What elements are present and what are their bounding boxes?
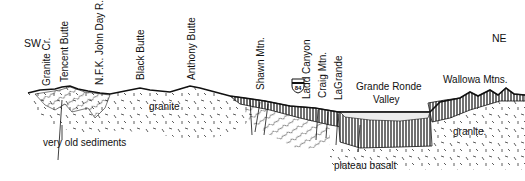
label-granite-cr: Granite Cr.: [42, 38, 52, 86]
shield-number: 84: [291, 85, 305, 91]
label-tencent-butte: Tencent Butte: [60, 21, 70, 82]
label-lagrande: LaGrande: [334, 56, 344, 100]
geologic-cross-section: [0, 0, 525, 181]
label-nfk-john-day: N.F.K. John Day R.: [95, 0, 105, 85]
label-anthony-butte: Anthony Butte: [187, 17, 197, 80]
label-plateau-basalt: plateau basalt: [334, 161, 396, 171]
direction-ne: NE: [492, 33, 507, 44]
direction-sw: SW: [24, 38, 41, 49]
label-granite-left: granite: [149, 102, 180, 112]
label-craig-mtn: Craig Mtn.: [318, 52, 328, 98]
label-wallowa-mtns: Wallowa Mtns.: [443, 75, 508, 85]
label-shawn-mtn: Shawn Mtn.: [256, 37, 266, 90]
interstate-84-shield: 84: [291, 78, 305, 94]
label-granite-right: granite.: [453, 127, 486, 137]
label-grande-ronde: Grande Ronde: [356, 82, 422, 92]
label-very-old-sediments: very old sediments: [43, 138, 126, 148]
label-black-butte: Black Butte: [136, 29, 146, 80]
label-valley: Valley: [373, 95, 400, 105]
